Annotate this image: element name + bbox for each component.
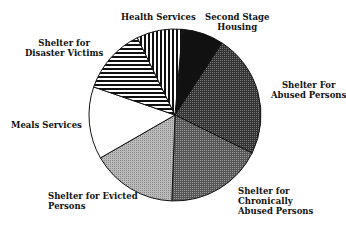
label-line: Abused Persons xyxy=(271,90,346,100)
label-line: Shelter for xyxy=(238,186,313,196)
label-line: Housing xyxy=(205,22,269,32)
label-second-stage-housing: Second Stage Housing xyxy=(205,12,269,32)
label-line: Shelter For xyxy=(271,80,346,90)
pie-chart: Health Services Second Stage Housing She… xyxy=(0,0,346,225)
label-shelter-evicted: Shelter for Evicted Persons xyxy=(48,191,138,211)
label-line: Second Stage xyxy=(205,12,269,22)
label-health-services: Health Services xyxy=(121,12,196,22)
label-shelter-chronically-abused: Shelter for Chronically Abused Persons xyxy=(238,186,313,216)
label-shelter-disaster: Shelter for Disaster Victims xyxy=(25,38,103,58)
label-line: Shelter for xyxy=(25,38,103,48)
label-line: Disaster Victims xyxy=(25,48,103,58)
label-line: Abused Persons xyxy=(238,206,313,216)
label-line: Persons xyxy=(48,201,138,211)
label-meals-services: Meals Services xyxy=(11,120,82,130)
label-shelter-abused: Shelter For Abused Persons xyxy=(271,80,346,100)
label-line: Shelter for Evicted xyxy=(48,191,138,201)
label-line: Chronically xyxy=(238,196,313,206)
